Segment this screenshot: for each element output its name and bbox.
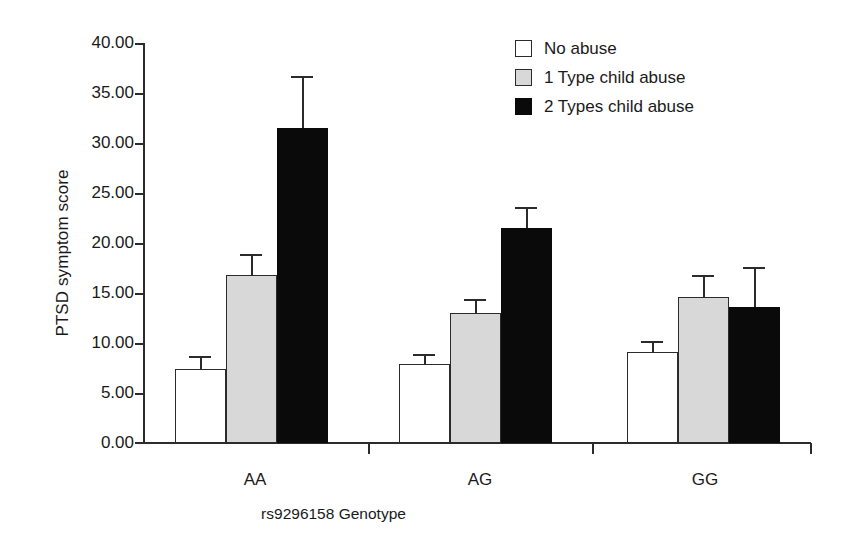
errorbar-cap-AA-one-type [240, 254, 262, 256]
errorbar-cap-AG-one-type [464, 299, 486, 301]
y-tick-mark-0 [135, 442, 144, 444]
bar-AA-one-type [226, 275, 277, 443]
y-tick-label-group: 40.00 35.00 30.00 25.00 20.00 15.00 10.0… [52, 0, 134, 541]
legend-swatch-one-type-icon [515, 69, 532, 86]
errorbar-cap-GG-one-type [692, 275, 714, 277]
y-tick-label-30: 30.00 [60, 133, 134, 153]
bar-GG-two-types [729, 307, 780, 443]
x-tick-label-AA: AA [244, 470, 267, 490]
legend: No abuse 1 Type child abuse 2 Types chil… [515, 34, 694, 121]
bar-AA-no-abuse [175, 369, 226, 443]
x-tick-label-GG: GG [692, 470, 718, 490]
errorbar-cap-AA-two-types [291, 76, 313, 78]
legend-item-two-types: 2 Types child abuse [515, 92, 694, 121]
y-tick-mark-30 [135, 143, 144, 145]
legend-swatch-two-types-icon [515, 98, 532, 115]
legend-label-two-types: 2 Types child abuse [544, 97, 694, 117]
y-tick-label-10: 10.00 [60, 333, 134, 353]
y-tick-mark-35 [135, 93, 144, 95]
bar-AG-one-type [450, 313, 501, 443]
errorbar-stem-AG-two-types [526, 208, 528, 228]
y-tick-label-0: 0.00 [60, 433, 134, 453]
y-tick-label-40: 40.00 [60, 33, 134, 53]
errorbar-cap-AG-no-abuse [413, 354, 435, 356]
y-tick-mark-5 [135, 393, 144, 395]
legend-item-one-type: 1 Type child abuse [515, 63, 694, 92]
errorbar-stem-AG-no-abuse [424, 355, 426, 364]
y-tick-label-25: 25.00 [60, 183, 134, 203]
errorbar-stem-GG-one-type [703, 276, 705, 297]
y-tick-mark-10 [135, 343, 144, 345]
errorbar-cap-GG-two-types [743, 267, 765, 269]
legend-label-one-type: 1 Type child abuse [544, 68, 685, 88]
bar-GG-no-abuse [627, 352, 678, 443]
bar-GG-one-type [678, 297, 729, 443]
errorbar-stem-AG-one-type [475, 300, 477, 313]
errorbar-cap-AG-two-types [515, 207, 537, 209]
bar-AG-no-abuse [399, 364, 450, 443]
legend-swatch-no-abuse-icon [515, 40, 532, 57]
errorbar-cap-GG-no-abuse [641, 341, 663, 343]
bar-AG-two-types [501, 228, 552, 443]
y-tick-mark-40 [135, 43, 144, 45]
errorbar-stem-GG-two-types [754, 268, 756, 307]
errorbar-stem-GG-no-abuse [652, 342, 654, 352]
errorbar-stem-AA-no-abuse [200, 357, 202, 369]
x-tick-mark-1 [368, 443, 370, 454]
y-tick-label-35: 35.00 [60, 83, 134, 103]
y-tick-label-5: 5.00 [60, 383, 134, 403]
x-axis-label: rs9296158 Genotype [261, 505, 406, 523]
legend-label-no-abuse: No abuse [544, 39, 617, 59]
errorbar-cap-AA-no-abuse [189, 356, 211, 358]
bar-AA-two-types [277, 128, 328, 443]
errorbar-stem-AA-two-types [302, 77, 304, 128]
y-tick-label-15: 15.00 [60, 283, 134, 303]
legend-item-no-abuse: No abuse [515, 34, 694, 63]
y-tick-mark-20 [135, 243, 144, 245]
y-tick-mark-25 [135, 193, 144, 195]
errorbar-stem-AA-one-type [251, 255, 253, 275]
y-tick-mark-15 [135, 293, 144, 295]
x-tick-mark-3 [810, 443, 812, 454]
x-tick-label-AG: AG [468, 470, 493, 490]
y-tick-label-20: 20.00 [60, 233, 134, 253]
x-tick-mark-2 [592, 443, 594, 454]
x-axis-label-wrapper: rs9296158 Genotype [0, 505, 842, 523]
ptsd-genotype-bar-chart: PTSD symptom score 40.00 35.00 30.00 25.… [0, 0, 842, 541]
